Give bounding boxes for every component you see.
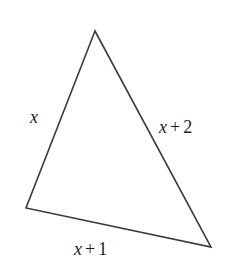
- side-label-bottom-constant: 1: [98, 239, 107, 259]
- triangle-outline: [26, 31, 211, 247]
- side-label-right-operator: +: [170, 117, 180, 137]
- side-label-left: x: [30, 108, 38, 126]
- side-label-right: x+2: [159, 118, 192, 136]
- side-label-bottom-operator: +: [85, 239, 95, 259]
- side-label-right-variable: x: [159, 117, 167, 137]
- side-label-bottom: x+1: [74, 240, 107, 258]
- side-label-left-variable: x: [30, 107, 38, 127]
- side-label-bottom-variable: x: [74, 239, 82, 259]
- geometry-figure: x x+2 x+1: [0, 0, 233, 271]
- side-label-right-constant: 2: [183, 117, 192, 137]
- triangle-shape: [0, 0, 233, 271]
